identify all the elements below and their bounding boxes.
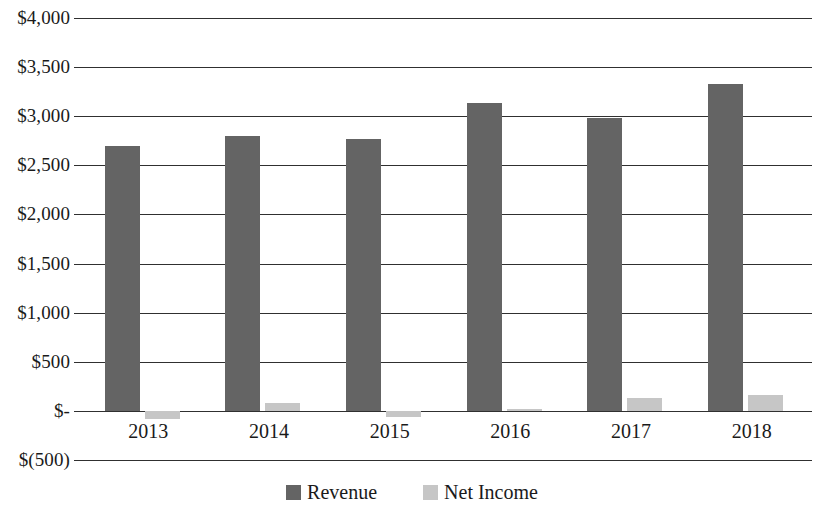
y-axis-label: $2,000 <box>0 204 70 223</box>
x-axis-label-2014: 2014 <box>209 421 330 441</box>
bar-net-income-2014[interactable] <box>265 403 300 411</box>
bar-net-income-2013[interactable] <box>145 411 180 419</box>
legend-label: Net Income <box>444 482 538 502</box>
chart-legend: RevenueNet Income <box>0 482 824 502</box>
bar-net-income-2015[interactable] <box>386 411 421 417</box>
bar-chart: $4,000$3,500$3,000$2,500$2,000$1,500$1,0… <box>0 0 824 509</box>
legend-swatch-icon <box>286 485 301 500</box>
y-axis-label: $1,000 <box>0 303 70 322</box>
bar-group <box>329 18 450 460</box>
y-axis-tick <box>74 18 88 19</box>
bar-group <box>571 18 692 460</box>
bar-revenue-2018[interactable] <box>708 84 743 411</box>
bar-group <box>450 18 571 460</box>
plot-area: $4,000$3,500$3,000$2,500$2,000$1,500$1,0… <box>88 18 812 460</box>
bar-net-income-2018[interactable] <box>748 395 783 411</box>
y-axis-label: $1,500 <box>0 254 70 273</box>
x-axis-label-2016: 2016 <box>450 421 571 441</box>
bar-net-income-2016[interactable] <box>507 409 542 410</box>
y-axis-label: $500 <box>0 352 70 371</box>
y-axis-tick <box>74 165 88 166</box>
y-axis-tick <box>74 116 88 117</box>
x-axis-label-2015: 2015 <box>329 421 450 441</box>
y-axis-label: $(500) <box>0 450 70 469</box>
gridline <box>88 460 812 461</box>
y-axis-tick <box>74 264 88 265</box>
y-axis-label: $- <box>0 401 70 420</box>
y-axis-label: $3,000 <box>0 106 70 125</box>
y-axis-label: $3,500 <box>0 57 70 76</box>
bar-net-income-2017[interactable] <box>627 398 662 411</box>
y-axis-label: $2,500 <box>0 155 70 174</box>
bar-group <box>88 18 209 460</box>
bar-revenue-2016[interactable] <box>467 103 502 410</box>
x-axis-label-2017: 2017 <box>571 421 692 441</box>
x-axis-label-2013: 2013 <box>88 421 209 441</box>
x-axis-label-2018: 2018 <box>691 421 812 441</box>
bar-revenue-2013[interactable] <box>105 146 140 411</box>
y-axis-tick <box>74 362 88 363</box>
bar-group <box>209 18 330 460</box>
y-axis-tick <box>74 460 88 461</box>
legend-swatch-icon <box>423 485 438 500</box>
bar-revenue-2014[interactable] <box>225 136 260 411</box>
legend-item-net-income[interactable]: Net Income <box>423 482 538 502</box>
y-axis-tick <box>74 214 88 215</box>
legend-label: Revenue <box>307 482 377 502</box>
bar-group <box>691 18 812 460</box>
y-axis-tick <box>74 411 88 412</box>
bar-revenue-2015[interactable] <box>346 139 381 411</box>
bar-revenue-2017[interactable] <box>587 118 622 411</box>
y-axis-label: $4,000 <box>0 8 70 27</box>
legend-item-revenue[interactable]: Revenue <box>286 482 377 502</box>
y-axis-tick <box>74 67 88 68</box>
y-axis-tick <box>74 313 88 314</box>
